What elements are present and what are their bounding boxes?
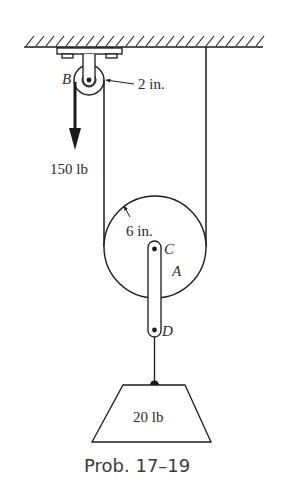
pulley-b-pin	[87, 78, 92, 83]
label-pulley-a: A	[171, 263, 182, 279]
cable-attachment	[150, 381, 159, 386]
pulley-system-diagram: B 2 in. 150 lb 6 in. C A D 20 lb Prob. 1…	[0, 0, 283, 500]
mount-bolt-left	[62, 54, 73, 58]
link-cd	[148, 241, 161, 337]
mount-plate	[57, 48, 122, 54]
label-weight: 20 lb	[133, 409, 163, 425]
label-pin-c: C	[164, 241, 175, 257]
figure-caption: Prob. 17–19	[84, 455, 190, 476]
mount-bolt-right	[106, 54, 117, 58]
label-pulley-b: B	[62, 71, 71, 87]
label-applied-force: 150 lb	[50, 161, 88, 177]
pin-d	[152, 328, 157, 333]
pulley-b	[74, 54, 104, 95]
label-pulley-b-radius: 2 in.	[138, 76, 165, 92]
pulley-b-radius-leader	[106, 80, 134, 84]
ceiling	[24, 36, 264, 47]
ceiling-hatching	[26, 36, 264, 46]
pin-c	[152, 247, 157, 252]
label-pulley-a-radius: 6 in.	[126, 223, 153, 239]
label-pin-d: D	[161, 323, 173, 339]
